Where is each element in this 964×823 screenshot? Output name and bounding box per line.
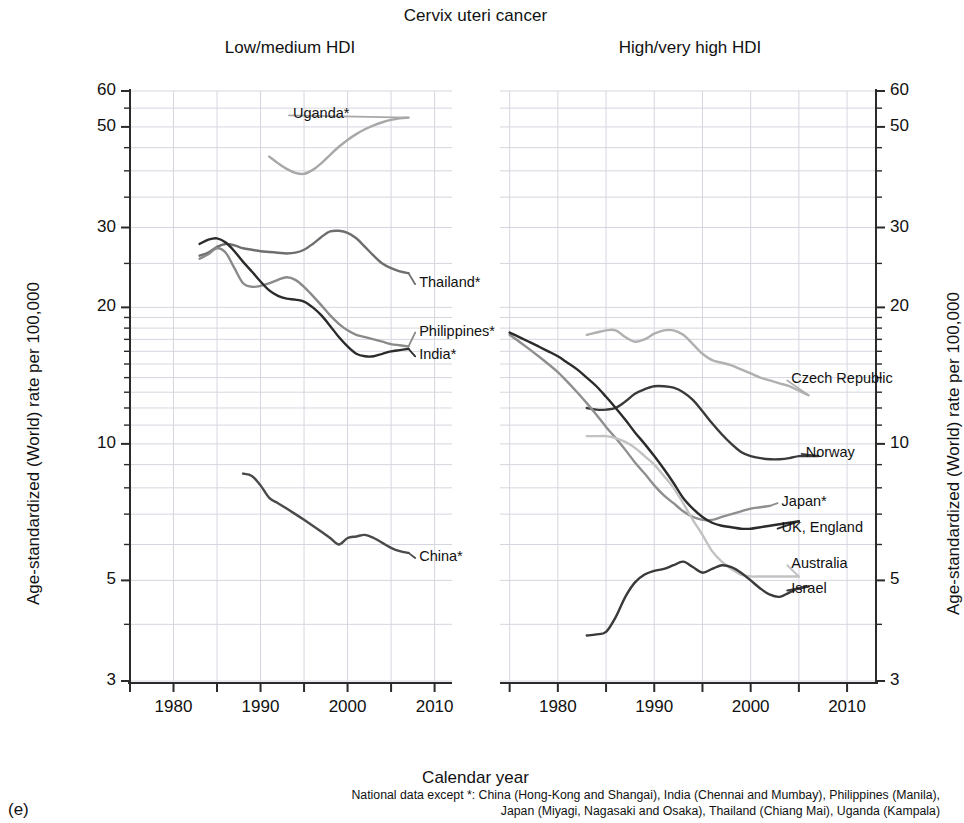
y-tick-left-3: 3 bbox=[74, 670, 116, 690]
series-label-india: India* bbox=[419, 346, 456, 362]
x-tick-left-1990: 1990 bbox=[226, 697, 296, 717]
series-line-uganda bbox=[269, 118, 408, 174]
footnote-line-1: National data except *: China (Hong-Kong… bbox=[160, 787, 940, 803]
y-tick-left-30: 30 bbox=[74, 217, 116, 237]
series-label-norway: Norway bbox=[806, 444, 855, 460]
y-tick-right-10: 10 bbox=[890, 433, 932, 453]
y-tick-right-60: 60 bbox=[890, 80, 932, 100]
x-tick-left-2000: 2000 bbox=[313, 697, 383, 717]
series-leader-4 bbox=[408, 553, 415, 558]
y-tick-right-5: 5 bbox=[890, 569, 932, 589]
series-label-czech-republic: Czech Republic bbox=[791, 370, 893, 386]
x-tick-left-1980: 1980 bbox=[139, 697, 209, 717]
y-tick-right-30: 30 bbox=[890, 217, 932, 237]
y-tick-left-20: 20 bbox=[74, 296, 116, 316]
series-leader-1 bbox=[408, 273, 415, 284]
y-tick-right-3: 3 bbox=[890, 670, 932, 690]
x-tick-right-2000: 2000 bbox=[716, 697, 786, 717]
series-line-japan bbox=[510, 335, 770, 520]
series-leader-3 bbox=[408, 349, 415, 356]
y-tick-left-5: 5 bbox=[74, 569, 116, 589]
series-line-china bbox=[243, 474, 408, 553]
y-tick-right-20: 20 bbox=[890, 296, 932, 316]
panel-tag: (e) bbox=[8, 800, 29, 820]
series-leader-2 bbox=[770, 503, 778, 506]
x-tick-right-1990: 1990 bbox=[619, 697, 689, 717]
y-tick-left-10: 10 bbox=[74, 433, 116, 453]
series-label-australia: Australia bbox=[791, 555, 847, 571]
footnote-line-2: Japan (Miyagi, Nagasaki and Osaka), Thai… bbox=[160, 803, 940, 819]
series-label-thailand: Thailand* bbox=[419, 274, 480, 290]
y-tick-right-50: 50 bbox=[890, 116, 932, 136]
x-tick-left-2010: 2010 bbox=[400, 697, 470, 717]
x-tick-right-1980: 1980 bbox=[523, 697, 593, 717]
series-label-uganda: Uganda* bbox=[293, 105, 349, 121]
y-tick-left-50: 50 bbox=[74, 116, 116, 136]
series-label-philippines: Philippines* bbox=[419, 323, 495, 339]
series-label-israel: Israel bbox=[791, 580, 826, 596]
footnote: National data except *: China (Hong-Kong… bbox=[160, 787, 940, 819]
series-label-uk-england: UK, England bbox=[782, 519, 863, 535]
y-tick-left-60: 60 bbox=[74, 80, 116, 100]
series-label-china: China* bbox=[419, 548, 463, 564]
x-tick-right-2010: 2010 bbox=[812, 697, 882, 717]
series-label-japan: Japan* bbox=[782, 493, 827, 509]
